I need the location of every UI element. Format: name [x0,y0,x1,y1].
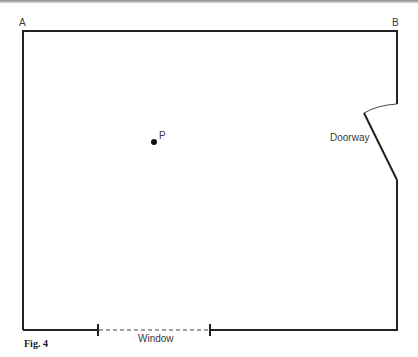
wall-outline-top [23,31,397,330]
door-swing-arc [364,104,397,113]
corner-label-b: B [392,18,399,28]
window-label: Window [138,334,174,344]
doorway-label: Doorway [330,133,369,143]
wall-outline-bottom-right [210,180,397,330]
room-plan [0,0,418,357]
door-leaf [364,113,397,180]
point-label-p: P [159,131,166,141]
corner-label-a: A [19,18,26,28]
figure-caption: Fig. 4 [24,339,48,349]
point-p-dot [151,139,157,145]
